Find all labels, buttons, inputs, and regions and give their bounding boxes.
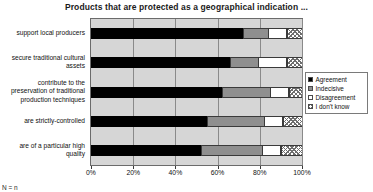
grid-line [302,19,303,165]
x-axis-tick-label: 0% [86,169,96,176]
bar-segment-dontknow [281,145,302,156]
bar-segment-indecisive [243,28,268,39]
legend-item-disagreement[interactable]: Disagreement [308,93,365,102]
swatch-agreement-icon [308,77,313,82]
bar-segment-disagreement [268,28,287,39]
x-axis-tick-label: 40% [169,169,183,176]
x-axis-tick-label: 60% [211,169,225,176]
swatch-disagreement-icon [308,95,313,100]
x-axis-tick-label: 80% [253,169,267,176]
bar-segment-dontknow [283,116,302,127]
y-axis-label-4: are of a particular high quality [0,142,85,159]
y-axis-label-2: contribute to the preservation of tradit… [0,79,85,104]
x-axis-tick-label: 20% [126,169,140,176]
bar-segment-disagreement [264,116,283,127]
bar-segment-dontknow [289,87,302,98]
bar-segment-agreement [91,145,201,156]
bar-segment-agreement [91,116,207,127]
bar-row [91,57,302,68]
bar-segment-agreement [91,57,230,68]
bar-segment-dontknow [287,57,302,68]
bar-row [91,145,302,156]
bar-segment-agreement [91,87,222,98]
y-axis-label-3: are strictly-controlled [0,117,85,125]
chart-title: Products that are protected as a geograp… [0,2,373,12]
legend-label-disagreement: Disagreement [316,94,356,102]
bar-row [91,116,302,127]
x-axis-tick-label: 100% [293,169,310,176]
bar-segment-dontknow [287,28,302,39]
chart-footnote: N = n [2,184,18,192]
bar-segment-indecisive [207,116,264,127]
y-axis-category-labels: support local producers secure tradition… [0,18,88,166]
y-axis-label-1: secure traditional cultural assets [0,54,85,71]
legend-label-indecisive: Indecisive [316,85,344,93]
bar-segment-disagreement [270,87,289,98]
bar-row [91,28,302,39]
chart-container: Products that are protected as a geograp… [0,0,373,192]
legend-label-dontknow: I don't know [316,103,350,111]
y-axis-label-0: support local producers [0,29,85,37]
legend-item-dontknow[interactable]: I don't know [308,102,365,111]
stacked-bars-layer [91,19,302,165]
bar-segment-agreement [91,28,243,39]
bar-segment-disagreement [262,145,281,156]
chart-legend: Agreement Indecisive Disagreement I don'… [305,72,368,114]
legend-item-agreement[interactable]: Agreement [308,75,365,84]
bar-row [91,87,302,98]
swatch-indecisive-icon [308,86,313,91]
bar-segment-indecisive [230,57,257,68]
bar-segment-disagreement [258,57,288,68]
legend-item-indecisive[interactable]: Indecisive [308,84,365,93]
plot-area [90,18,303,166]
swatch-dontknow-icon [308,104,313,109]
x-axis-tick-labels: 0%20%40%60%80%100% [90,169,303,181]
legend-label-agreement: Agreement [316,76,347,84]
bar-segment-indecisive [201,145,262,156]
bar-segment-indecisive [222,87,271,98]
